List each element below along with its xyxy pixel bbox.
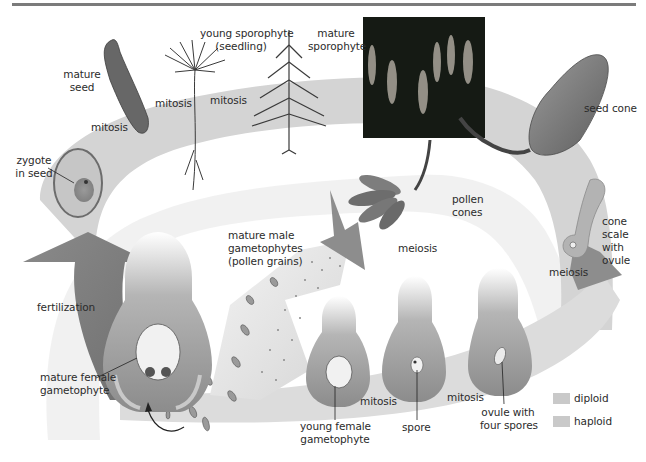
label-pollen-cones: pollen cones (452, 193, 483, 219)
pollen-cones-photo (363, 17, 485, 138)
label-mitosis-2: mitosis (155, 97, 192, 110)
label-spore: spore (402, 421, 431, 434)
label-mature-seed: mature seed (62, 68, 102, 94)
label-mitosis-3: mitosis (210, 94, 247, 107)
label-meiosis-left: meiosis (398, 242, 437, 255)
label-mitosis-4: mitosis (360, 395, 397, 408)
cone-scale-ovule (570, 242, 576, 248)
label-meiosis-right: meiosis (549, 266, 588, 279)
legend-swatch-haploid (553, 416, 570, 427)
label-young-female: young female gametophyte (300, 420, 370, 446)
legend-label-haploid: haploid (574, 415, 612, 428)
label-seed-cone: seed cone (584, 102, 637, 115)
label-zygote: zygote in seed (15, 154, 53, 180)
label-mature-female: mature female gametophyte (40, 371, 116, 397)
label-mature-sporophyte: mature sporophyte (308, 27, 364, 53)
label-fertilization: fertilization (37, 301, 95, 314)
label-young-sporophyte: young sporophyte (seedling) (200, 27, 282, 53)
legend-label-diploid: diploid (574, 392, 608, 405)
label-mitosis-5: mitosis (447, 391, 484, 404)
label-cone-scale: cone scale with ovule (602, 215, 630, 267)
four-spores-ovule (468, 268, 532, 396)
label-ovule-four-spores: ovule with four spores (480, 406, 536, 432)
zygote-seed (54, 149, 102, 217)
label-mitosis-1: mitosis (91, 121, 128, 134)
young-female-ovule (306, 296, 370, 407)
spore-ovule (382, 276, 446, 402)
legend-swatch-diploid (553, 393, 570, 404)
label-male-gametophytes: mature male gametophytes (pollen grains) (228, 229, 303, 268)
